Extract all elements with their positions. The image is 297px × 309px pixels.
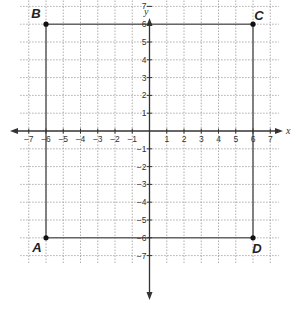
y-tick-label: −5: [137, 215, 147, 225]
y-tick-label: −1: [137, 144, 147, 154]
point-a: [43, 235, 48, 240]
y-tick-label: 3: [142, 73, 147, 83]
coordinate-plane: x y −7−6−5−4−3−2−112345677654321−1−2−3−4…: [0, 0, 297, 309]
x-tick-label: 6: [251, 134, 256, 144]
x-tick-label: 7: [268, 134, 273, 144]
x-tick-label: −4: [76, 134, 86, 144]
y-tick-label: 7: [142, 1, 147, 11]
x-tick-label: 5: [233, 134, 238, 144]
x-axis-left-arrow-icon: [10, 128, 18, 134]
x-tick-label: −3: [93, 134, 103, 144]
x-axis-right-arrow-icon: [275, 128, 283, 134]
y-tick-label: 5: [142, 37, 147, 47]
y-axis-up-arrow-icon: [147, 18, 153, 26]
x-tick-label: −1: [127, 134, 137, 144]
point-label-d: D: [252, 241, 262, 256]
y-tick-label: −3: [137, 179, 147, 189]
x-tick-label: −2: [110, 134, 120, 144]
x-tick-label: −6: [41, 134, 51, 144]
x-tick-label: −7: [24, 134, 34, 144]
x-tick-label: 4: [216, 134, 221, 144]
x-tick-label: 3: [199, 134, 204, 144]
x-tick-label: 2: [182, 134, 187, 144]
y-tick-label: −2: [137, 162, 147, 172]
y-tick-label: 1: [142, 108, 147, 118]
point-label-c: C: [254, 8, 264, 23]
point-b: [43, 22, 48, 27]
point-label-a: A: [31, 240, 41, 255]
y-tick-label: −4: [137, 197, 147, 207]
y-tick-label: 6: [142, 19, 147, 29]
x-axis-label: x: [285, 125, 291, 136]
x-tick-label: −5: [58, 134, 68, 144]
point-label-b: B: [31, 6, 40, 21]
point-d: [250, 235, 255, 240]
y-tick-label: 4: [142, 55, 147, 65]
x-tick-label: 1: [164, 134, 169, 144]
y-tick-label: −7: [137, 251, 147, 261]
y-axis-down-arrow-icon: [147, 292, 153, 300]
y-tick-label: −6: [137, 233, 147, 243]
y-tick-label: 2: [142, 90, 147, 100]
